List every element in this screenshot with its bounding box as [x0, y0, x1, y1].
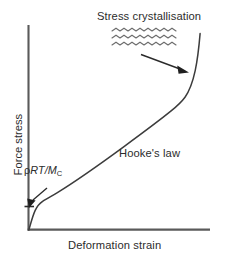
- modulus-label: ρRT/MC: [24, 165, 62, 176]
- y-axis-label-wrapper: Force stress: [0, 100, 18, 190]
- x-axis-label: Deformation strain: [68, 240, 161, 251]
- y-axis-label: Force stress: [13, 100, 24, 190]
- stress-strain-curve: [29, 34, 200, 230]
- wave-row-2: [112, 35, 176, 38]
- aligned-crystallite-waves: [112, 28, 176, 45]
- modulus-label-body: RT/M: [30, 164, 57, 176]
- crystallisation-arrow-shaft: [141, 55, 180, 70]
- stress-crystallisation-label: Stress crystallisation: [97, 11, 201, 22]
- hookes-law-label: Hooke's law: [119, 148, 180, 159]
- wave-row-1: [112, 28, 176, 31]
- wave-row-3: [112, 42, 176, 45]
- modulus-label-subscript: C: [57, 169, 63, 178]
- figure-canvas: [0, 0, 226, 262]
- modulus-arrow-shaft: [33, 188, 47, 200]
- stress-strain-figure: Stress crystallisation Hooke's law ρRT/M…: [0, 0, 226, 262]
- crystallisation-arrow-head: [177, 66, 189, 74]
